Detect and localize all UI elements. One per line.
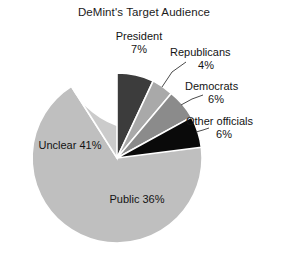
pie-label-public: Public 36%	[104, 193, 170, 206]
pie-label-republicans: Republicans 4%	[170, 46, 242, 71]
pie-label-public-name: Public	[109, 193, 139, 205]
pie-label-public-value: 36%	[143, 193, 165, 205]
pie-label-democrats-value: 6%	[185, 93, 247, 106]
pie-label-unclear-name: Unclear	[39, 139, 77, 151]
pie-label-republicans-value: 4%	[170, 59, 242, 72]
pie-label-other-officials: Other officials 6%	[186, 115, 262, 140]
pie-label-president-value: 7%	[104, 43, 174, 56]
pie-label-democrats: Democrats 6%	[185, 80, 247, 105]
pie-label-president: President 7%	[104, 30, 174, 55]
pie-label-other-officials-name: Other officials	[186, 115, 253, 127]
pie-label-unclear: Unclear 41%	[37, 139, 103, 152]
pie-label-democrats-name: Democrats	[185, 80, 238, 92]
pie-label-other-officials-value: 6%	[186, 128, 262, 141]
pie-label-unclear-value: 41%	[79, 139, 101, 151]
chart-page: DeMint's Target Audience President 7% Re…	[0, 0, 288, 277]
pie-label-president-name: President	[116, 30, 162, 42]
pie-label-republicans-name: Republicans	[170, 46, 231, 58]
